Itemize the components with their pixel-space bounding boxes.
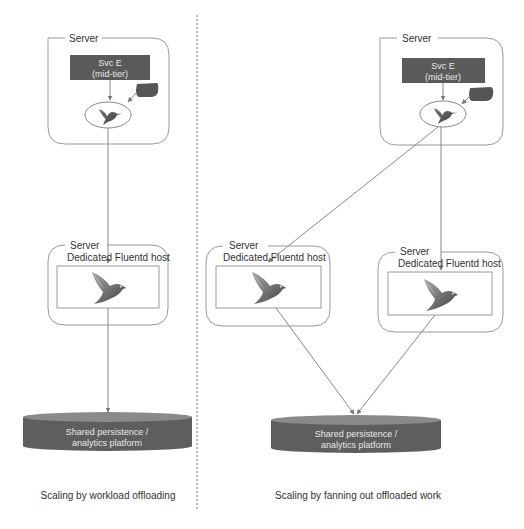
left-panel: Server Svc E (mid-tier) Server Dedicated…: [23, 33, 192, 501]
server-label: Server: [69, 33, 99, 44]
service-name: Svc E: [98, 58, 122, 68]
server-label: Server: [400, 246, 430, 257]
server-label: Server: [402, 33, 432, 44]
storage-label-line1: Shared persistence /: [66, 427, 149, 437]
storage-cylinder-right: Shared persistence / analytics platform: [271, 415, 441, 453]
storage-label-line1: Shared persistence /: [315, 429, 398, 439]
diagram-canvas: Server Svc E (mid-tier) Server Dedicated…: [0, 0, 524, 529]
speech-bubble-icon: [469, 87, 493, 101]
server-label: Server: [229, 240, 259, 251]
service-tier: (mid-tier): [92, 69, 128, 79]
right-panel-caption: Scaling by fanning out offloaded work: [275, 490, 442, 501]
service-name: Svc E: [431, 61, 455, 71]
fluentd-host-box-middle: Server Dedicated Fluentd host: [206, 240, 330, 326]
fluentd-host-title: Dedicated Fluentd host: [223, 252, 326, 263]
storage-label-line2: analytics platform: [321, 440, 391, 450]
server-label: Server: [70, 240, 100, 251]
left-panel-caption: Scaling by workload offloading: [41, 490, 176, 501]
fluentd-host-title: Dedicated Fluentd host: [67, 252, 170, 263]
fluentd-host-box-right: Server Dedicated Fluentd host: [378, 246, 503, 332]
fluentd-host-title: Dedicated Fluentd host: [398, 258, 501, 269]
server-box-top-left: Server Svc E (mid-tier): [48, 33, 169, 144]
right-panel: Server Svc E (mid-tier) Server Dedicated…: [206, 33, 503, 501]
fluentd-host-box-left: Server Dedicated Fluentd host: [48, 240, 170, 325]
speech-bubble-icon: [136, 83, 158, 97]
storage-label-line2: analytics platform: [72, 438, 142, 448]
storage-cylinder-left: Shared persistence / analytics platform: [23, 412, 192, 451]
service-tier: (mid-tier): [425, 72, 461, 82]
